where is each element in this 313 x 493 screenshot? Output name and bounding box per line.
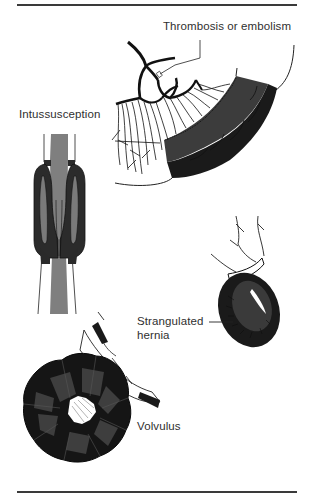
- volvulus-label: Volvulus: [137, 420, 181, 433]
- intussusception-illustration: [34, 134, 85, 314]
- strangulated-hernia-label-line2: hernia: [137, 329, 170, 342]
- intussusception-label: Intussusception: [19, 108, 100, 121]
- mesenteric-ischemia-illustration: [112, 40, 294, 185]
- thrombosis-embolism-label: Thrombosis or embolism: [163, 20, 291, 33]
- bottom-rule: [17, 491, 297, 493]
- strangulated-hernia-label-line1: Strangulated: [137, 315, 203, 328]
- strangulated-hernia-illustration: [208, 216, 290, 356]
